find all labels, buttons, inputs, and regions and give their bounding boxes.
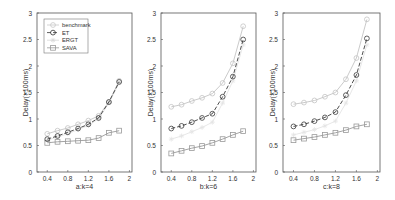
- y-axis-label: Delay(×100ms): [22, 69, 30, 117]
- y-tick-label: 0.5: [147, 142, 156, 149]
- ergt-marker: [200, 125, 205, 130]
- x-axis-label: a:k=4: [76, 183, 93, 190]
- legend-label: ERGT: [62, 37, 79, 43]
- ergt-marker: [302, 130, 307, 135]
- y-tick-label: 0.5: [269, 142, 278, 149]
- series-benchmark: [169, 24, 246, 109]
- x-tick-label: 0.4: [43, 175, 52, 182]
- ergt-marker: [333, 119, 338, 124]
- legend-label: ET: [62, 30, 70, 36]
- series-sava: [169, 129, 246, 156]
- y-tick-label: 0: [274, 169, 278, 176]
- legend-label: benchmark: [62, 22, 91, 28]
- y-axis-label: Delay(×100ms): [147, 69, 155, 117]
- y-tick-label: 2.5: [147, 36, 156, 43]
- ergt-marker: [354, 78, 359, 83]
- series-ergt: [169, 42, 246, 141]
- series-benchmark: [291, 17, 369, 107]
- plot-area: [161, 13, 256, 172]
- x-axis-label: b:k=6: [200, 183, 217, 190]
- series-et: [169, 37, 246, 131]
- x-tick-label: 0.8: [63, 175, 72, 182]
- y-tick-label: 2: [152, 63, 156, 70]
- ergt-marker: [323, 123, 328, 128]
- y-tick-label: 2: [28, 63, 32, 70]
- x-tick-label: 0.4: [167, 175, 176, 182]
- legend-label: SAVA: [62, 45, 77, 51]
- x-tick-label: 1.6: [228, 175, 237, 182]
- figure: 00.511.522.530.40.81.21.62a:k=4Delay(×10…: [0, 0, 395, 200]
- x-tick-label: 1.2: [84, 175, 93, 182]
- ergt-marker: [312, 127, 317, 132]
- y-tick-label: 2.5: [23, 36, 32, 43]
- chart-figure: 00.511.522.530.40.81.21.62a:k=4Delay(×10…: [0, 0, 395, 200]
- x-tick-label: 2: [376, 175, 380, 182]
- chart-panel-1: 00.511.522.530.40.81.21.62a:k=4Delay(×10…: [22, 10, 132, 191]
- ergt-marker: [210, 120, 215, 125]
- et-marker: [344, 93, 349, 98]
- x-tick-label: 1.6: [352, 175, 361, 182]
- et-marker: [364, 36, 369, 41]
- y-tick-label: 0: [28, 169, 32, 176]
- x-tick-label: 1.2: [208, 175, 217, 182]
- chart-panel-2: 00.511.522.530.40.81.21.62b:k=6Delay(×10…: [147, 10, 256, 191]
- benchmark-marker: [45, 131, 50, 136]
- chart-panel-3: 00.511.522.530.40.81.21.62c:k=8Delay(×10…: [269, 10, 380, 191]
- series-ergt: [45, 81, 122, 143]
- x-tick-label: 1.2: [331, 175, 340, 182]
- x-tick-label: 0.8: [310, 175, 319, 182]
- y-tick-label: 2: [274, 63, 278, 70]
- x-axis-label: c:k=8: [323, 183, 340, 190]
- x-tick-label: 0.8: [187, 175, 196, 182]
- ergt-marker: [179, 134, 184, 139]
- y-tick-label: 2.5: [269, 36, 278, 43]
- legend: benchmarkETERGTSAVA: [44, 19, 91, 53]
- ergt-marker: [169, 137, 174, 142]
- sava-marker: [169, 151, 174, 156]
- ergt-marker: [344, 101, 349, 106]
- y-tick-label: 3: [28, 10, 32, 17]
- ergt-marker: [189, 129, 194, 134]
- ergt-marker: [291, 133, 296, 138]
- series-ergt: [291, 42, 369, 137]
- y-tick-label: 0: [152, 169, 156, 176]
- y-tick-label: 3: [274, 10, 278, 17]
- x-tick-label: 2: [252, 175, 256, 182]
- y-tick-label: 0.5: [23, 142, 32, 149]
- x-tick-label: 2: [128, 175, 132, 182]
- legend-ergt-marker: [51, 38, 56, 43]
- x-tick-label: 1.6: [104, 175, 113, 182]
- y-tick-label: 3: [152, 10, 156, 17]
- ergt-marker: [220, 101, 225, 106]
- x-tick-label: 0.4: [289, 175, 298, 182]
- y-axis-label: Delay(×100ms): [269, 69, 277, 117]
